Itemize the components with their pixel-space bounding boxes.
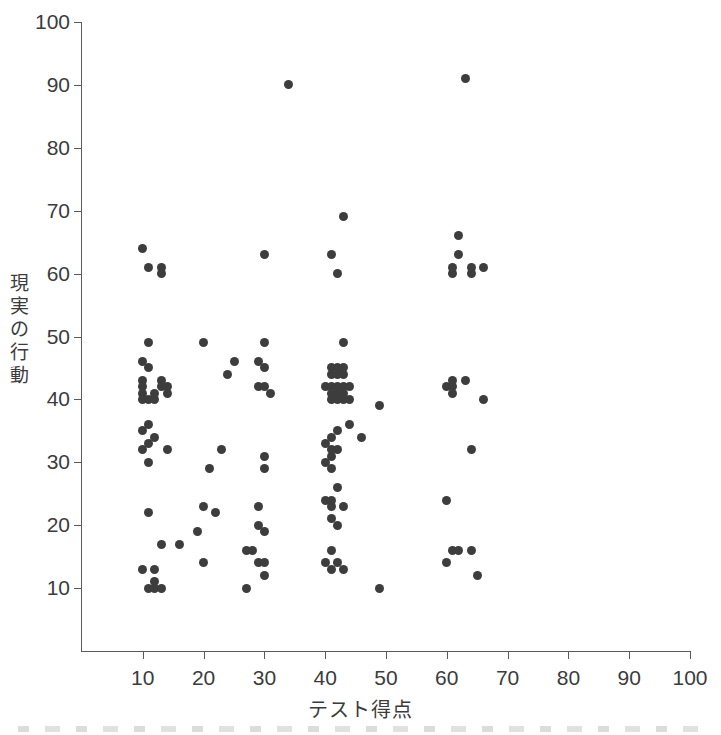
y-axis-label: 現実の行動 [6,272,32,387]
y-tick-label: 80 [10,137,70,158]
data-point [467,546,476,555]
x-tick-label: 60 [417,666,477,689]
y-tick-label: 20 [10,514,70,535]
x-tick-label: 70 [478,666,538,689]
x-tick-mark [204,651,205,659]
data-point [230,357,239,366]
data-point [375,584,384,593]
y-tick-label: 40 [10,388,70,409]
scatter-plot-figure: 102030405060708090100 102030405060708090… [0,0,721,735]
data-point [333,269,342,278]
y-tick-mark [74,274,82,275]
x-tick-mark [568,651,569,659]
scan-artifact [18,726,706,732]
x-tick-mark [690,651,691,659]
data-point [479,395,488,404]
x-tick-mark [325,651,326,659]
data-point [345,420,354,429]
data-point [327,546,336,555]
data-point [254,502,263,511]
data-point [175,540,184,549]
data-point [193,527,202,536]
x-tick-label: 50 [356,666,416,689]
data-point [327,250,336,259]
y-tick-label: 100 [10,11,70,32]
x-tick-mark [264,651,265,659]
data-point [448,389,457,398]
data-point [479,263,488,272]
x-tick-label: 100 [660,666,720,689]
y-tick-mark [74,525,82,526]
data-point [467,269,476,278]
data-point [157,540,166,549]
x-tick-mark [386,651,387,659]
x-tick-label: 80 [538,666,598,689]
x-tick-label: 90 [599,666,659,689]
data-point [339,502,348,511]
data-point [260,452,269,461]
y-tick-label: 10 [10,577,70,598]
plot-area [82,22,690,651]
data-point [163,445,172,454]
data-point [242,584,251,593]
y-tick-mark [74,211,82,212]
data-point [327,502,336,511]
data-point [163,389,172,398]
x-tick-mark [629,651,630,659]
data-point [157,584,166,593]
data-point [260,571,269,580]
y-tick-mark [74,399,82,400]
data-point [138,565,147,574]
data-point [327,464,336,473]
x-tick-mark [143,651,144,659]
y-tick-label: 70 [10,200,70,221]
y-tick-label: 30 [10,451,70,472]
x-tick-mark [508,651,509,659]
y-tick-label: 90 [10,74,70,95]
y-tick-mark [74,588,82,589]
data-point [473,571,482,580]
x-tick-mark [447,651,448,659]
x-tick-label: 10 [113,666,173,689]
data-point [260,464,269,473]
x-axis-label: テスト得点 [0,694,721,723]
data-point [266,389,275,398]
data-point [461,376,470,385]
x-tick-label: 40 [295,666,355,689]
data-point [260,527,269,536]
data-point [461,74,470,83]
x-tick-label: 20 [174,666,234,689]
y-tick-mark [74,22,82,23]
data-point [467,445,476,454]
data-point [157,269,166,278]
data-point [339,370,348,379]
data-point [442,496,451,505]
x-tick-label: 30 [234,666,294,689]
y-tick-mark [74,337,82,338]
data-point [339,565,348,574]
data-point [345,395,354,404]
data-point [248,546,257,555]
data-point [357,433,366,442]
y-tick-mark [74,148,82,149]
y-tick-mark [74,85,82,86]
data-point [333,483,342,492]
data-point [327,565,336,574]
data-point [333,521,342,530]
y-tick-mark [74,462,82,463]
data-point [199,502,208,511]
